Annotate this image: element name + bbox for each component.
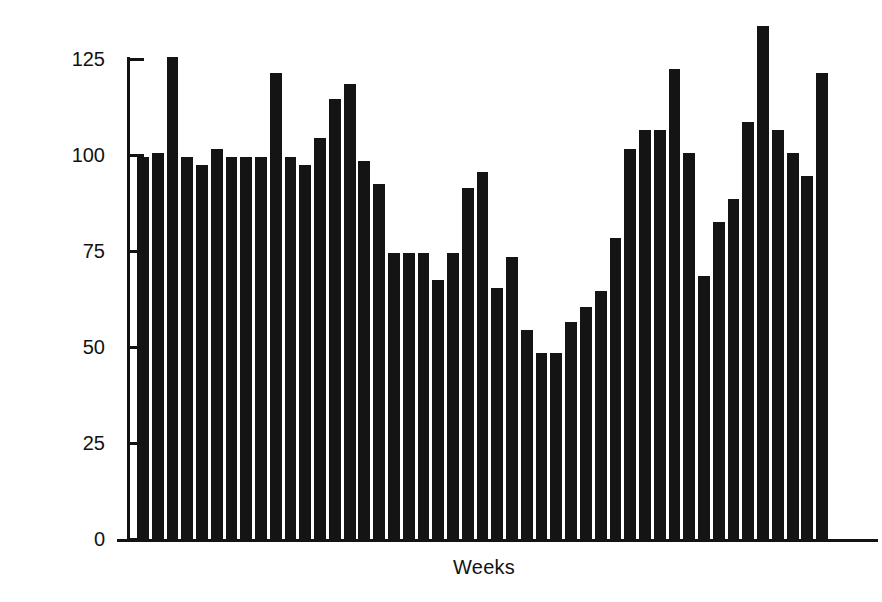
bar (536, 353, 548, 541)
y-axis-line (127, 57, 130, 542)
bar (403, 253, 415, 541)
bar (595, 291, 607, 541)
bar (181, 157, 193, 541)
bar (152, 153, 164, 541)
bar (772, 130, 784, 541)
bar (728, 199, 740, 541)
bar (683, 153, 695, 541)
bar (462, 188, 474, 541)
bar (713, 222, 725, 541)
y-axis-tick-mark (127, 154, 144, 157)
bar (477, 172, 489, 541)
y-axis-tick-label: 25 (40, 432, 115, 455)
bar (255, 157, 267, 541)
bar (801, 176, 813, 541)
bar (329, 99, 341, 541)
bar (669, 69, 681, 541)
y-axis-tick-labels: 0255075100125 (40, 0, 115, 602)
x-axis-label: Weeks (137, 556, 831, 579)
bar (270, 73, 282, 541)
bar (418, 253, 430, 541)
bar (521, 330, 533, 541)
y-axis-tick-mark (127, 442, 144, 445)
bar (388, 253, 400, 541)
bar (624, 149, 636, 541)
bar (506, 257, 518, 541)
bar-chart-figure: Volume sales index 0255075100125 Weeks (0, 0, 882, 602)
bar (137, 157, 149, 541)
bar (432, 280, 444, 541)
bar (580, 307, 592, 541)
bar (816, 73, 828, 541)
bar (787, 153, 799, 541)
y-axis-tick-mark (127, 250, 144, 253)
bar (742, 122, 754, 541)
bar (654, 130, 666, 541)
bar (639, 130, 651, 541)
bar (226, 157, 238, 541)
y-axis-tick-label: 50 (40, 336, 115, 359)
bar (285, 157, 297, 541)
bar (565, 322, 577, 541)
bar (373, 184, 385, 541)
y-axis-tick-label: 100 (40, 144, 115, 167)
bar (314, 138, 326, 541)
bar (344, 84, 356, 541)
bar (167, 57, 179, 541)
bar (698, 276, 710, 541)
y-axis-tick-mark (127, 538, 144, 541)
plot-area (137, 0, 831, 541)
y-axis-tick-label: 75 (40, 240, 115, 263)
bar (211, 149, 223, 541)
y-axis-tick-mark (127, 58, 144, 61)
bar (358, 161, 370, 541)
bar (491, 288, 503, 541)
bar (610, 238, 622, 541)
x-axis-label-text: Weeks (453, 556, 515, 578)
y-axis-tick-label: 0 (40, 528, 115, 551)
bar (240, 157, 252, 541)
bar (196, 165, 208, 541)
y-axis-tick-mark (127, 346, 144, 349)
bar (550, 353, 562, 541)
bar (299, 165, 311, 541)
bar (447, 253, 459, 541)
bar (757, 26, 769, 541)
y-axis-tick-label: 125 (40, 48, 115, 71)
